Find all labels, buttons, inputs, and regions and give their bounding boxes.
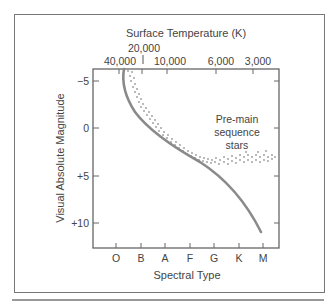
x-tick-O: O <box>112 252 120 264</box>
x-tick-K: K <box>235 252 242 264</box>
top-tick-20000: 20,000 <box>128 42 160 54</box>
x-axis-ticks <box>116 243 263 248</box>
y-tick-p10: +10 <box>71 217 89 229</box>
top-tick-40000: 40,000 <box>104 55 136 67</box>
annotation-line2: sequence <box>214 126 260 138</box>
plot-area <box>93 69 279 248</box>
top-tick-10000: 10,000 <box>154 55 186 67</box>
y-tick-0: 0 <box>83 122 89 134</box>
x-tick-B: B <box>137 252 144 264</box>
annotation-line3: stars <box>226 139 249 151</box>
y-tick-p5: +5 <box>77 170 89 182</box>
top-tick-3000: 3,000 <box>245 55 271 67</box>
top-axis-ticks <box>119 69 253 74</box>
annotation-line1: Pre-main <box>216 113 259 125</box>
y-axis-title: Visual Absolute Magnitude <box>54 93 66 222</box>
top-axis-title: Surface Temperature (K) <box>126 27 246 39</box>
x-tick-G: G <box>210 252 218 264</box>
top-tick-6000: 6,000 <box>208 55 234 67</box>
y-axis-ticks <box>93 81 279 223</box>
x-axis-title: Spectral Type <box>153 269 220 281</box>
y-tick-m5: −5 <box>77 75 89 87</box>
x-tick-F: F <box>187 252 193 264</box>
hr-diagram: Surface Temperature (K) 20,000 40,000 10… <box>0 0 335 307</box>
x-tick-M: M <box>259 252 268 264</box>
x-tick-A: A <box>161 252 168 264</box>
